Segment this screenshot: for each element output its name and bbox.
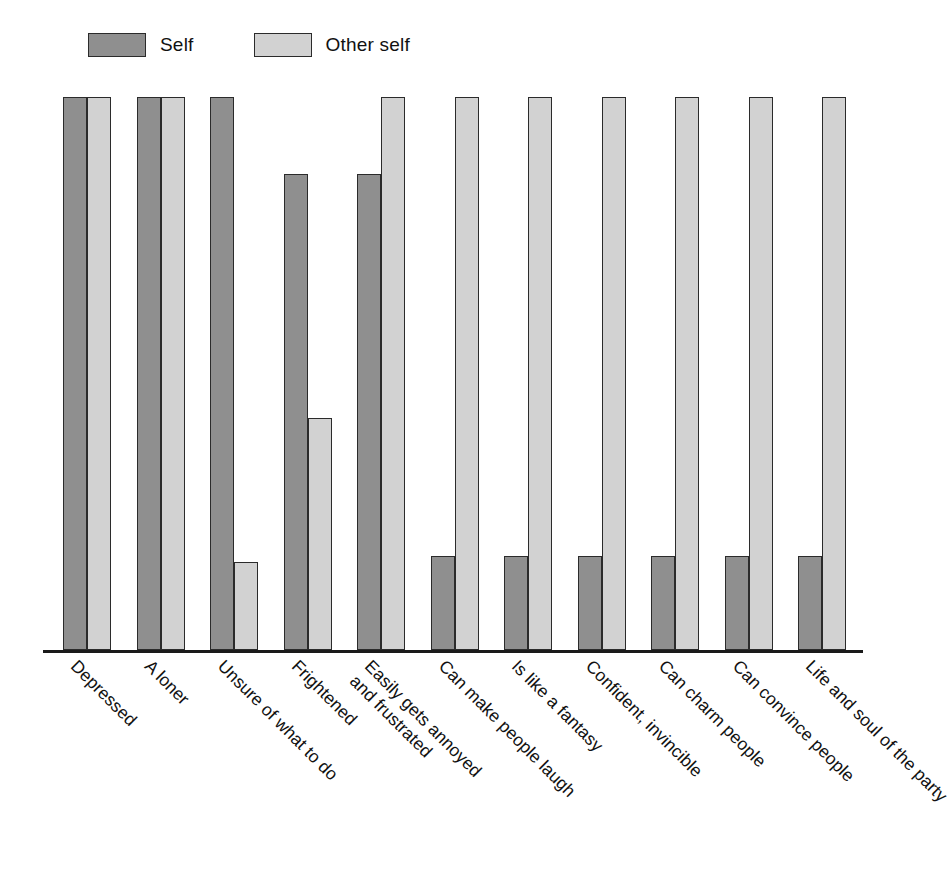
bar-self[interactable]: [284, 174, 308, 650]
bar-other-self[interactable]: [234, 562, 258, 650]
bar-self[interactable]: [137, 97, 161, 650]
bar-group: [504, 97, 552, 650]
chart-legend: Self Other self: [88, 30, 410, 60]
bar-group: [63, 97, 111, 650]
bar-other-self[interactable]: [822, 97, 846, 650]
bar-other-self[interactable]: [87, 97, 111, 650]
bar-self[interactable]: [357, 174, 381, 650]
bar-self[interactable]: [431, 556, 455, 650]
bar-self[interactable]: [210, 97, 234, 650]
bar-other-self[interactable]: [161, 97, 185, 650]
x-tick-label-line: Can convince people: [727, 656, 858, 787]
x-tick-label: Unsure of what to do: [213, 656, 342, 785]
legend-label-self: Self: [160, 34, 194, 56]
bar-group: [578, 97, 626, 650]
x-tick-label-line: A loner: [139, 656, 193, 710]
bar-other-self[interactable]: [602, 97, 626, 650]
bar-other-self[interactable]: [528, 97, 552, 650]
x-axis-line: [43, 650, 863, 653]
bar-group: [210, 97, 258, 650]
bar-other-self[interactable]: [675, 97, 699, 650]
bar-group: [431, 97, 479, 650]
bar-group: [651, 97, 699, 650]
bar-group: [798, 97, 846, 650]
bar-self[interactable]: [504, 556, 528, 650]
x-tick-label: Can convince people: [727, 656, 858, 787]
legend-item-self: Self: [88, 33, 194, 57]
bar-self[interactable]: [578, 556, 602, 650]
x-tick-label: Frightened: [286, 656, 360, 730]
bar-other-self[interactable]: [308, 418, 332, 650]
bar-group: [284, 97, 332, 650]
bar-self[interactable]: [651, 556, 675, 650]
x-tick-label: Depressed: [66, 656, 141, 731]
legend-item-other-self: Other self: [254, 33, 410, 57]
x-tick-label-line: Unsure of what to do: [213, 656, 342, 785]
legend-swatch-other-self: [254, 33, 312, 57]
plot-area: [43, 97, 863, 653]
bars-layer: [43, 97, 863, 650]
bar-group: [137, 97, 185, 650]
legend-swatch-self: [88, 33, 146, 57]
x-tick-label-line: Frightened: [286, 656, 360, 730]
x-tick-label-line: Depressed: [66, 656, 141, 731]
bar-other-self[interactable]: [749, 97, 773, 650]
bar-group: [357, 97, 405, 650]
x-tick-label: Life and soul of the party: [801, 656, 951, 807]
bar-other-self[interactable]: [381, 97, 405, 650]
bar-self[interactable]: [63, 97, 87, 650]
bar-self[interactable]: [798, 556, 822, 650]
bar-self[interactable]: [725, 556, 749, 650]
x-axis-tick-labels: DepressedA lonerUnsure of what to doFrig…: [43, 656, 873, 866]
legend-label-other-self: Other self: [326, 34, 410, 56]
bar-group: [725, 97, 773, 650]
bar-other-self[interactable]: [455, 97, 479, 650]
x-tick-label-line: Life and soul of the party: [801, 656, 951, 807]
x-tick-label: A loner: [139, 656, 193, 710]
